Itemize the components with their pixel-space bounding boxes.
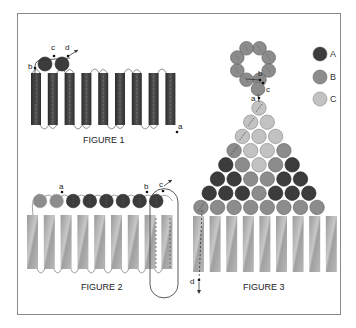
legend-swatch-a [313, 47, 327, 61]
loop [155, 269, 163, 273]
loop [121, 269, 129, 273]
loop [150, 125, 158, 129]
circle-b [244, 172, 258, 186]
circle-a [210, 172, 224, 186]
label-c: c [159, 180, 163, 189]
helix-bar [326, 216, 337, 272]
circle-a [285, 158, 299, 172]
circle-b [310, 200, 324, 214]
helix-bar [128, 215, 139, 269]
loop [87, 269, 95, 273]
loop [82, 125, 90, 129]
label-a: a [178, 122, 183, 131]
circle-c [268, 129, 282, 143]
label-b: b [258, 69, 263, 78]
loop [54, 269, 62, 273]
helix-bar [161, 215, 172, 269]
label-d: d [190, 277, 194, 286]
circle-c [252, 158, 266, 172]
label-c: c [51, 43, 55, 52]
loop [99, 70, 107, 74]
loop [138, 269, 146, 273]
label-b: b [144, 182, 149, 191]
circle-b [235, 158, 249, 172]
circle-c [260, 115, 274, 129]
helix-bar [226, 216, 237, 272]
point-a [61, 191, 64, 194]
figure-2-circles [33, 194, 173, 208]
loop [40, 125, 49, 129]
circle-b [268, 158, 282, 172]
label-c: c [266, 85, 270, 94]
circle-a [285, 186, 299, 200]
circle-a [219, 186, 233, 200]
label-a: a [59, 182, 64, 191]
circle-b [50, 194, 64, 208]
point-b [146, 191, 149, 194]
label-a: a [251, 94, 256, 103]
figure-2-caption: FIGURE 2 [81, 282, 123, 292]
point-b [259, 79, 262, 82]
loop [66, 70, 74, 74]
circle-c [244, 143, 258, 157]
circle-c [235, 129, 249, 143]
loop [90, 69, 99, 73]
label-b: b [28, 62, 33, 71]
circle-a [268, 186, 282, 200]
helix-bar [276, 216, 287, 272]
circle-b [277, 200, 291, 214]
circle-a [227, 172, 241, 186]
helix-bar [210, 216, 221, 272]
point-d [198, 279, 201, 282]
circle-b [260, 200, 274, 214]
point-d [67, 55, 70, 58]
label-d: d [65, 43, 69, 52]
figure-1-helix-bars [31, 73, 175, 125]
circle-b [260, 172, 274, 186]
loop [104, 269, 112, 273]
figure-2-helix-bars [27, 215, 172, 269]
loop [124, 69, 133, 73]
helix-bar [193, 216, 204, 272]
loop [74, 125, 83, 129]
legend-label-b: B [330, 72, 336, 82]
circle-b [252, 186, 266, 200]
legend-label-a: A [330, 49, 336, 59]
circle-c [244, 115, 258, 129]
circle-a [202, 186, 216, 200]
loop [37, 269, 45, 273]
helix-bar [27, 215, 38, 269]
helix-bar [94, 215, 105, 269]
circle-b [194, 200, 208, 214]
circle-b [293, 200, 307, 214]
helix-bar [259, 216, 270, 272]
figure-1: b c d a FIGURE 1 [28, 43, 183, 145]
circle-a [293, 172, 307, 186]
legend-label-c: C [330, 94, 337, 104]
helix-bar [61, 215, 72, 269]
figure-1-caption: FIGURE 1 [83, 135, 125, 145]
circle-b [210, 200, 224, 214]
legend: A B C [313, 47, 337, 106]
legend-swatch-c [313, 92, 327, 106]
helix-bar [44, 215, 55, 269]
figure-3-caption: FIGURE 3 [243, 282, 285, 292]
circle-b [33, 194, 47, 208]
helix-bar [293, 216, 304, 272]
loop [141, 125, 150, 129]
point-c [162, 190, 165, 193]
loop [133, 70, 141, 74]
point-a [258, 97, 261, 100]
circle-b [230, 64, 244, 78]
helix-bar [243, 216, 254, 272]
loop [158, 69, 167, 73]
circle-a [235, 186, 249, 200]
diagram-canvas: b c d a FIGURE 1 a b c FIGURE 2 d [0, 0, 356, 328]
helix-bar [77, 215, 88, 269]
figure-3-triangle [194, 101, 325, 215]
figure-2: a b c FIGURE 2 [27, 180, 178, 298]
circle-b [262, 51, 276, 65]
helix-bar [111, 215, 122, 269]
circle-b [277, 143, 291, 157]
circle-a [302, 186, 316, 200]
